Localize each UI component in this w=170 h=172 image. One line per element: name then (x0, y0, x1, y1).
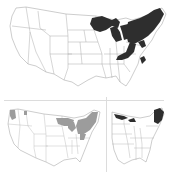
map-panel-bottom-left (4, 104, 104, 170)
horizontal-divider (4, 100, 164, 101)
vertical-divider (106, 97, 107, 172)
us-map-bottom-right (110, 104, 168, 170)
us-map-top (6, 2, 168, 90)
us-map-bottom-left (4, 104, 104, 170)
map-panel-bottom-right (110, 104, 168, 170)
map-panel-top (6, 2, 168, 90)
